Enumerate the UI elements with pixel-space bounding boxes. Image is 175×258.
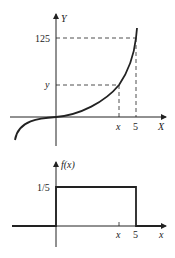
top-x-axis-label: X — [157, 121, 165, 132]
bottom-tick-x: x — [115, 229, 121, 240]
tick-x: x — [115, 121, 121, 132]
bottom-y-axis-label: f(x) — [61, 159, 76, 171]
diagram-canvas: Y X 125 y x 5 f(x) x 1/5 x 5 — [0, 0, 175, 258]
bottom-x-axis-label: x — [158, 229, 164, 240]
tick-5: 5 — [133, 121, 138, 132]
tick-one-fifth: 1/5 — [37, 182, 50, 193]
top-y-axis-label: Y — [61, 13, 68, 24]
top-graph: Y X 125 y x 5 — [10, 13, 166, 146]
bottom-graph: f(x) x 1/5 x 5 — [12, 159, 166, 247]
tick-y: y — [44, 79, 50, 90]
bottom-tick-5: 5 — [133, 229, 138, 240]
uniform-density — [12, 187, 162, 226]
tick-125: 125 — [35, 33, 50, 44]
